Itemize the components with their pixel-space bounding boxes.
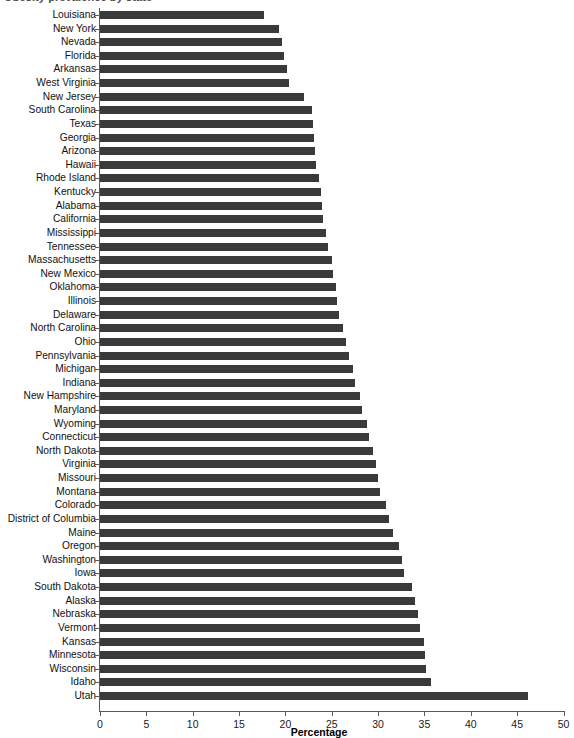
bar-label: Oklahoma <box>50 282 96 292</box>
bar-label: Virginia <box>62 459 96 469</box>
bar-label: Texas <box>69 119 96 129</box>
bar-row: Florida <box>0 52 574 60</box>
bar-label: West Virginia <box>36 78 96 88</box>
bar-label: Tennessee <box>47 242 96 252</box>
bar-row: North Dakota <box>0 447 574 455</box>
y-axis-tick <box>95 97 99 98</box>
bar-row: Texas <box>0 120 574 128</box>
y-axis-tick <box>95 410 99 411</box>
bar-row: Mississippi <box>0 229 574 237</box>
bar <box>100 392 360 400</box>
bar-row: Nevada <box>0 38 574 46</box>
bar-row: New Hampshire <box>0 392 574 400</box>
bar-row: Michigan <box>0 365 574 373</box>
y-axis-tick <box>95 642 99 643</box>
x-axis-tick <box>424 711 425 716</box>
bar-row: Hawaii <box>0 161 574 169</box>
bar-label: Connecticut <box>42 432 96 442</box>
bar <box>100 11 264 19</box>
bar-label: Alaska <box>65 596 96 606</box>
bar <box>100 93 304 101</box>
y-axis-tick <box>95 560 99 561</box>
bar-row: Tennessee <box>0 243 574 251</box>
bar-label: Minnesota <box>49 650 96 660</box>
y-axis-tick <box>95 492 99 493</box>
bar-row: West Virginia <box>0 79 574 87</box>
bar-label: Pennsylvania <box>35 351 96 361</box>
y-axis-tick <box>95 356 99 357</box>
bar <box>100 65 287 73</box>
bar <box>100 352 349 360</box>
y-axis-tick <box>95 696 99 697</box>
bar-row: Arizona <box>0 147 574 155</box>
bar-row: New York <box>0 25 574 33</box>
y-axis-tick <box>95 342 99 343</box>
bar-row: Iowa <box>0 569 574 577</box>
y-axis-tick <box>95 682 99 683</box>
bar-row: Louisiana <box>0 11 574 19</box>
bar <box>100 324 343 332</box>
bar-row: Ohio <box>0 338 574 346</box>
bar <box>100 52 284 60</box>
y-axis-tick <box>95 614 99 615</box>
bar-label: Georgia <box>60 133 96 143</box>
bar-row: Maine <box>0 529 574 537</box>
y-axis-tick <box>95 315 99 316</box>
bar <box>100 638 424 646</box>
bar-row: South Dakota <box>0 583 574 591</box>
bar-label: Idaho <box>71 677 97 687</box>
bar-row: District of Columbia <box>0 515 574 523</box>
bar <box>100 665 426 673</box>
bar <box>100 202 322 210</box>
bar <box>100 447 373 455</box>
bar-row: Kansas <box>0 638 574 646</box>
bar-label: Arkansas <box>54 64 96 74</box>
bar <box>100 624 420 632</box>
y-axis-tick <box>95 573 99 574</box>
x-axis-tick <box>564 711 565 716</box>
bar-label: Michigan <box>55 364 96 374</box>
bar <box>100 365 353 373</box>
bar <box>100 229 326 237</box>
bar-label: Washington <box>43 555 96 565</box>
x-axis-tick <box>100 711 101 716</box>
x-axis-tick <box>285 711 286 716</box>
bar-label: North Carolina <box>30 323 96 333</box>
bar <box>100 256 332 264</box>
x-axis-title-label: Percentage <box>291 726 348 738</box>
y-axis-tick <box>95 233 99 234</box>
bar-label: Indiana <box>63 378 96 388</box>
y-axis-tick <box>95 546 99 547</box>
bar <box>100 106 312 114</box>
bar <box>100 556 402 564</box>
y-axis-tick <box>95 628 99 629</box>
bar-label: Kentucky <box>54 187 96 197</box>
bar <box>100 542 399 550</box>
bar <box>100 692 528 700</box>
bar-label: South Carolina <box>29 105 96 115</box>
bar-row: New Jersey <box>0 93 574 101</box>
bar-label: Arizona <box>61 146 96 156</box>
bar-row: Minnesota <box>0 651 574 659</box>
bar <box>100 311 339 319</box>
y-axis-tick <box>95 505 99 506</box>
bar <box>100 120 313 128</box>
y-axis-tick <box>95 247 99 248</box>
bar-label: Florida <box>65 51 96 61</box>
bar <box>100 678 431 686</box>
bar-label: Nevada <box>61 37 96 47</box>
bar <box>100 420 367 428</box>
bar-row: Oklahoma <box>0 283 574 291</box>
bar <box>100 243 328 251</box>
y-axis-tick <box>95 301 99 302</box>
bar-row: South Carolina <box>0 106 574 114</box>
bar <box>100 38 282 46</box>
bar-label: Utah <box>74 691 96 701</box>
bar-row: Kentucky <box>0 188 574 196</box>
bar-row: Montana <box>0 488 574 496</box>
y-axis-tick <box>95 110 99 111</box>
bar-label: Hawaii <box>65 160 96 170</box>
bar-row: Connecticut <box>0 433 574 441</box>
bar-row: Nebraska <box>0 610 574 618</box>
bar <box>100 529 393 537</box>
